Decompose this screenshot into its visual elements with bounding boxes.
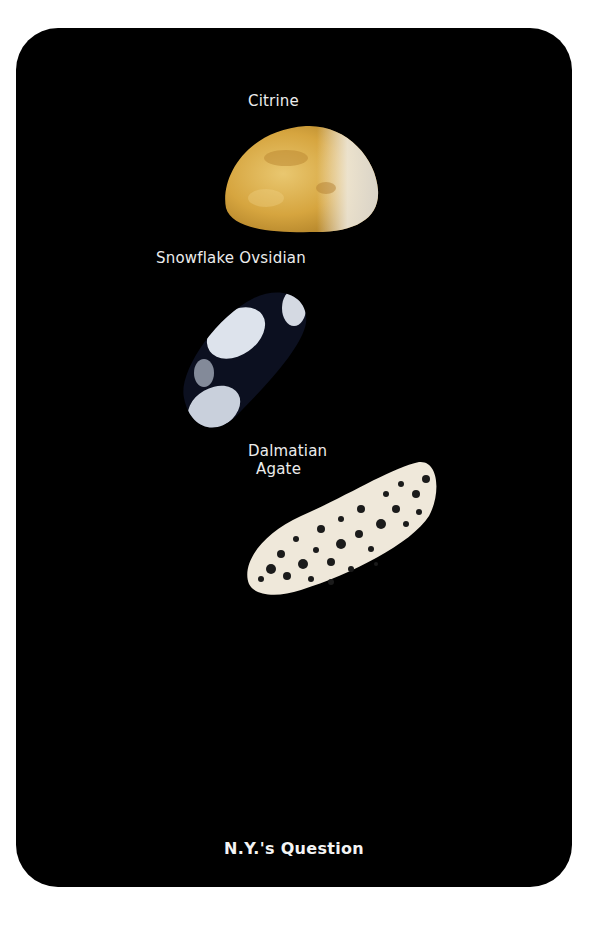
- dalmatian-agate-stone-icon: [241, 454, 441, 599]
- snowflake-obsidian-label: Snowflake Ovsidian: [156, 249, 306, 267]
- snowflake-obsidian-stone-icon: [174, 278, 314, 438]
- stone-card: Citrine Snowflake Ovsidian: [16, 28, 572, 887]
- card-footer-title: N.Y.'s Question: [16, 839, 572, 858]
- citrine-label: Citrine: [248, 92, 299, 110]
- citrine-stone-icon: [206, 118, 381, 238]
